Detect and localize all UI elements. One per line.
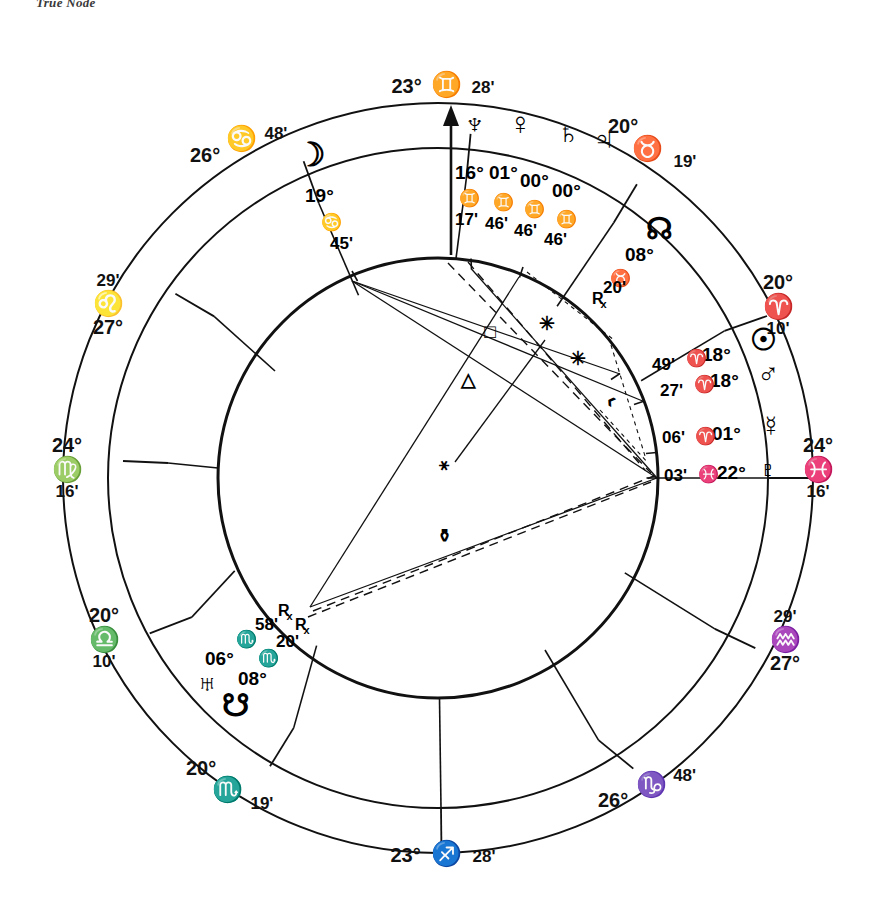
south-node-minute-wrap: 20' [276, 632, 299, 652]
cusp-8-degree: 20° [89, 604, 120, 627]
virgo-sign-icon: ♍ [52, 457, 83, 482]
aspect-lines-dashed [308, 262, 654, 617]
cusp-5: ♋ 48' 26° [190, 126, 284, 175]
pisces-sign-icon: ♓ [803, 457, 834, 482]
aries-sign-icon-mercury: ♈ [695, 427, 716, 446]
moon-minute-wrap: 45' [330, 234, 353, 254]
cusp-5-degree: 26° [190, 144, 220, 166]
cusp-12-minute: 29' [770, 607, 801, 627]
saturn-sign: ♊ [524, 199, 545, 220]
venus-minute-wrap: 46' [485, 214, 508, 234]
mercury-degree: 01° [712, 423, 741, 444]
mars-icon: ♂ [757, 356, 780, 389]
aspect-trine: △ [461, 370, 476, 389]
aquarius-sign-icon: ♒ [770, 627, 801, 652]
cusp-9: 20° ♏ 19' [186, 757, 270, 803]
uranus-minute-wrap: 58' [255, 615, 278, 635]
scorpio-sign-icon: ♏ [212, 775, 243, 803]
jupiter-degree: 00° [552, 180, 581, 201]
cusp-asc: 24° ♓ 16' [803, 434, 834, 502]
uranus-icon: ♅ [196, 666, 219, 699]
jupiter-minute-wrap: 46' [544, 230, 567, 250]
aspect-square: □ [484, 322, 495, 341]
aspect-opposition: ⚱ [437, 527, 452, 545]
pisces-sign-icon-pluto: ♓ [698, 465, 719, 484]
mercury-minute-wrap: 06' [662, 428, 685, 448]
sun-minute: 49' [652, 355, 675, 374]
cusp-6: 29' ♌ 27° [93, 271, 124, 339]
cusp-12: 29' ♒ 27° [770, 607, 801, 675]
uranus-degree-wrap: 06° [205, 648, 234, 670]
south-node-retro-wrap: Rx [295, 616, 313, 634]
mars-minute: 27' [660, 381, 683, 400]
uranus-retro-wrap: Rx [278, 602, 296, 620]
uranus-sign-wrap: ♏ [236, 629, 257, 650]
venus-sign-icon: ♊ [493, 193, 514, 212]
moon-icon: ☽ [296, 136, 326, 173]
saturn-minute-wrap: 46' [514, 221, 537, 241]
mars-minute-wrap: 27' [660, 381, 683, 401]
mars-sign-wrap: ♈ [694, 374, 715, 395]
cusp-11-minute: 48' [673, 766, 696, 785]
cusp-3: 20° ♉ 19' [608, 115, 690, 162]
saturn-minute: 46' [514, 221, 537, 240]
jupiter-sign-icon: ♊ [556, 210, 577, 229]
venus-sign: ♊ [493, 192, 514, 213]
saturn-position: 00° [520, 170, 549, 192]
cusp-mc-degree: 23° [391, 75, 421, 97]
cusp-5-minute: 48' [264, 124, 287, 143]
mercury-degree-wrap: 01° [712, 423, 741, 445]
south-node-degree: 08° [238, 668, 267, 689]
mercury-sign-wrap: ♈ [695, 426, 716, 447]
sun-icon: ☉ [750, 323, 777, 356]
pluto-minute: 03' [664, 466, 687, 485]
scorpio-sign-icon-uranus: ♏ [236, 630, 257, 649]
aries-sign-icon: ♈ [763, 294, 794, 319]
cusp-8: 20° ♎ 10' [89, 604, 120, 672]
cusp-3-minute: 19' [673, 152, 696, 171]
north-node-retro-wrap: Rx [592, 290, 610, 308]
cusp-ic: 23° ♐ 28' [390, 841, 495, 867]
cusp-8-minute: 10' [89, 652, 120, 672]
cusp-asc-minute: 16' [803, 482, 834, 502]
cusp-ic-degree: 23° [390, 844, 420, 866]
north-node-group: ☊ [646, 214, 673, 244]
north-node-degree-wrap: 08° [625, 244, 654, 266]
moon-group: ☽ [296, 138, 326, 171]
mercury-group: ☿ [760, 412, 782, 441]
aspect-sextile-a: ✳ [539, 314, 555, 333]
north-node-degree: 08° [625, 244, 654, 265]
moon-sign-wrap: ♋ [321, 212, 342, 233]
neptune-minute: 17' [455, 210, 478, 229]
north-node-icon: ☊ [646, 212, 673, 245]
cusp-dsc: 24° ♍ 16' [52, 434, 83, 502]
neptune-icon: ♆ [463, 106, 486, 141]
cusp-11: 26° ♑ 48' [598, 772, 694, 798]
cusp-ic-minute: 28' [473, 847, 496, 866]
saturn-sign-icon: ♊ [524, 200, 545, 219]
capricorn-sign-icon: ♑ [636, 770, 667, 798]
house-cusp-lines [168, 179, 768, 808]
cusp-2-degree: 20° [763, 271, 794, 294]
venus-degree: 01° [489, 162, 518, 183]
aspect-sextile-b: ✳ [570, 349, 586, 368]
aries-sign-icon-mars: ♈ [694, 375, 715, 394]
pluto-sign-wrap: ♓ [698, 464, 719, 485]
cusp-9-minute: 19' [250, 794, 273, 813]
cusp-mc: 23° ♊ 28' [391, 72, 494, 98]
pluto-icon: ♇ [757, 453, 779, 485]
cusp-dsc-minute: 16' [52, 482, 83, 502]
moon-sign-icon: ♋ [321, 213, 342, 232]
moon-minute: 45' [330, 234, 353, 253]
ring-band-dividers [123, 134, 813, 853]
uranus-group: ♅ [196, 668, 219, 698]
planet-group-gemini: ♆ ♀ ♄ ♃ [463, 108, 615, 139]
aspect-conjunction: ⚹ [439, 456, 449, 473]
cancer-sign-icon: ♋ [226, 124, 257, 152]
neptune-degree: 16° [455, 162, 484, 183]
cusp-6-minute: 29' [93, 271, 124, 291]
moon-degree-wrap: 19° [305, 185, 334, 207]
jupiter-sign: ♊ [556, 209, 577, 230]
sun-sign-wrap: ♈ [686, 348, 707, 369]
sun-group: ☉ [750, 325, 777, 355]
